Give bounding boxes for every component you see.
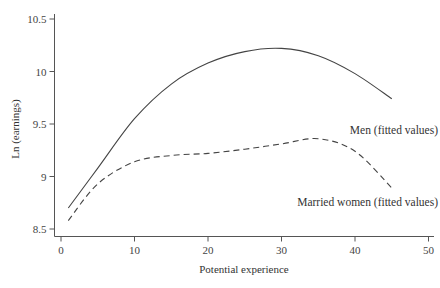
y-axis: 8.599.51010.5 bbox=[27, 13, 54, 237]
y-axis-title: Ln (earnings) bbox=[9, 99, 22, 159]
x-tick-label: 20 bbox=[203, 244, 215, 256]
y-tick-label: 10.5 bbox=[27, 13, 47, 25]
line-chart: 8.599.51010.5 01020304050 Men (fitted va… bbox=[0, 0, 440, 288]
x-tick-label: 10 bbox=[129, 244, 141, 256]
x-tick-label: 50 bbox=[423, 244, 435, 256]
men-series-label: Men (fitted values) bbox=[350, 124, 438, 137]
married-women-fitted-line bbox=[68, 139, 392, 221]
x-axis: 01020304050 bbox=[55, 237, 435, 256]
y-tick-label: 10 bbox=[36, 66, 48, 78]
x-tick-label: 40 bbox=[350, 244, 362, 256]
y-tick-label: 8.5 bbox=[33, 223, 47, 235]
y-tick-label: 9 bbox=[41, 171, 47, 183]
x-axis-title: Potential experience bbox=[199, 263, 289, 275]
men-fitted-line bbox=[68, 48, 392, 208]
plot-area bbox=[68, 48, 392, 220]
married-women-series-label: Married women (fitted values) bbox=[297, 196, 438, 209]
series-labels: Men (fitted values)Married women (fitted… bbox=[297, 124, 438, 209]
x-tick-label: 30 bbox=[276, 244, 288, 256]
x-tick-label: 0 bbox=[58, 244, 64, 256]
y-tick-label: 9.5 bbox=[33, 118, 47, 130]
